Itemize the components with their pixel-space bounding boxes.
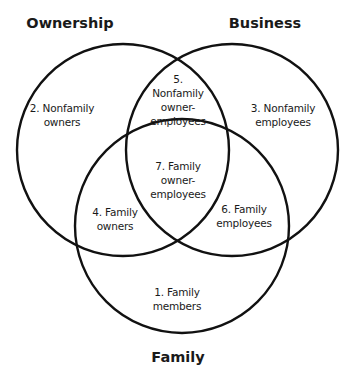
ownership-title: Ownership (26, 15, 113, 31)
svg-text:owners: owners (97, 220, 134, 232)
region-family-employees: 6. Family employees (216, 203, 272, 229)
svg-text:3. Nonfamily: 3. Nonfamily (251, 102, 315, 114)
svg-text:employees: employees (150, 188, 206, 200)
region-family-owners: 4. Family owners (92, 206, 137, 232)
svg-text:1. Family: 1. Family (154, 286, 199, 298)
venn-diagram: Ownership Business Family 2. Nonfamily o… (0, 0, 350, 380)
svg-text:2. Nonfamily: 2. Nonfamily (30, 102, 94, 114)
svg-text:owner-: owner- (161, 174, 196, 186)
region-nonfamily-owners: 2. Nonfamily owners (30, 102, 94, 128)
family-title: Family (151, 349, 205, 365)
region-nonfamily-employees: 3. Nonfamily employees (251, 102, 315, 128)
svg-text:employees: employees (216, 217, 272, 229)
business-title: Business (229, 15, 301, 31)
svg-text:5.: 5. (173, 73, 183, 85)
svg-text:6. Family: 6. Family (221, 203, 266, 215)
region-family-owner-employees: 7. Family owner- employees (150, 160, 206, 200)
region-family-members: 1. Family members (153, 286, 201, 312)
svg-text:members: members (153, 300, 201, 312)
svg-text:owners: owners (44, 116, 81, 128)
svg-text:employees: employees (150, 115, 206, 127)
svg-text:employees: employees (255, 116, 311, 128)
svg-text:owner-: owner- (161, 101, 196, 113)
region-nonfamily-owner-employees: 5. Nonfamily owner- employees (150, 73, 206, 127)
svg-text:Nonfamily: Nonfamily (152, 87, 204, 99)
svg-text:7. Family: 7. Family (155, 160, 200, 172)
svg-text:4. Family: 4. Family (92, 206, 137, 218)
